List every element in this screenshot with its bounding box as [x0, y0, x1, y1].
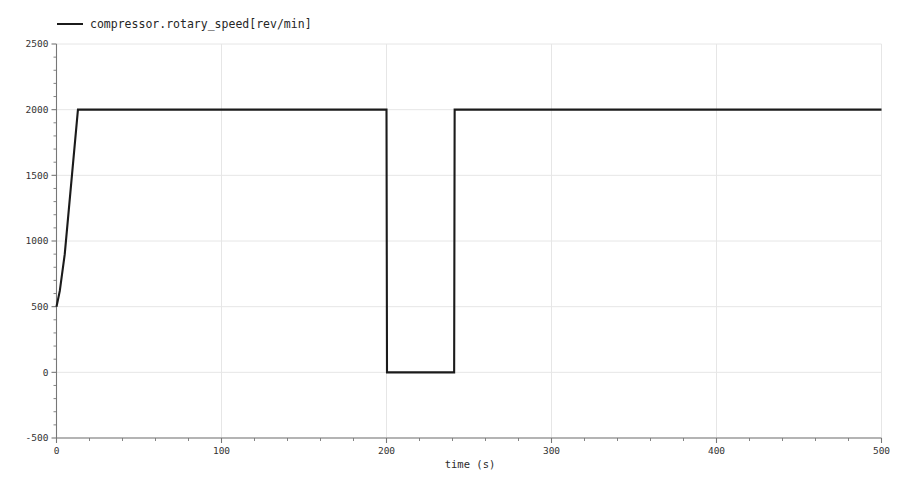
x-tick-label: 0 — [54, 445, 60, 456]
axis-ticks — [52, 44, 882, 443]
x-tick-label: 300 — [543, 445, 560, 456]
x-axis-title: time (s) — [445, 458, 496, 470]
x-tick-label: 500 — [873, 445, 890, 456]
plot-area: -500050010001500200025000100200300400500… — [0, 0, 908, 486]
x-tick-label: 200 — [378, 445, 395, 456]
axis-tick-labels: -500050010001500200025000100200300400500 — [26, 38, 891, 456]
x-tick-label: 100 — [213, 445, 230, 456]
gridlines — [57, 44, 882, 438]
y-tick-label: 2500 — [26, 38, 49, 49]
y-tick-label: 500 — [31, 301, 48, 312]
y-tick-label: 1500 — [26, 170, 49, 181]
y-tick-label: 2000 — [26, 104, 49, 115]
y-tick-label: 0 — [43, 367, 49, 378]
chart-container: compressor.rotary_speed[rev/min] -500050… — [0, 0, 908, 486]
y-tick-label: 1000 — [26, 235, 49, 246]
y-tick-label: -500 — [26, 432, 49, 443]
x-tick-label: 400 — [708, 445, 725, 456]
